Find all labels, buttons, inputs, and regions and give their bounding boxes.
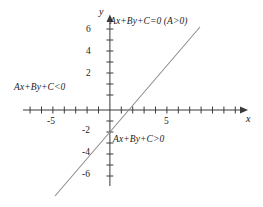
y-tick-label-2: 2 <box>86 69 91 79</box>
y-tick-label-minus-6: -6 <box>82 170 90 180</box>
coordinate-plane-figure: Ax+By+C=0 (A>0) Ax+By+C<0 Ax+By+C>0 x y … <box>0 0 263 207</box>
y-tick-label-minus-4: -4 <box>82 148 90 158</box>
x-tick-label-minus-5: -5 <box>47 117 55 127</box>
y-tick-label-minus-2: -2 <box>82 126 90 136</box>
y-tick-label-4: 4 <box>86 47 91 57</box>
x-axis-label: x <box>246 114 250 124</box>
x-tick-label-5: 5 <box>164 117 169 127</box>
y-tick-label-6: 6 <box>86 25 91 35</box>
y-axis-label: y <box>99 7 103 17</box>
plot-canvas <box>0 0 263 207</box>
x-axis <box>23 107 248 114</box>
line-equation-label: Ax+By+C=0 (A>0) <box>110 17 188 27</box>
positive-region-label: Ax+By+C>0 <box>113 135 164 145</box>
y-axis <box>106 15 113 187</box>
negative-region-label: Ax+By+C<0 <box>14 83 65 93</box>
